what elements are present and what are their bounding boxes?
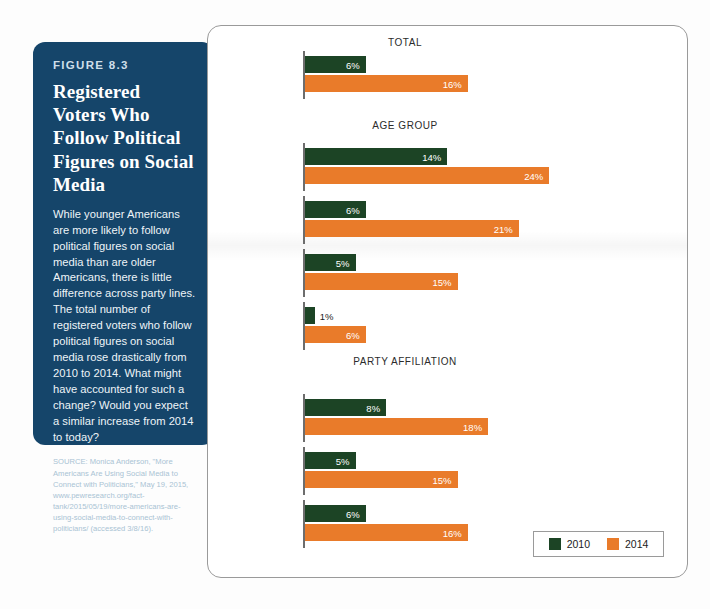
bar-2010: 5% xyxy=(305,452,356,469)
figure-number: FIGURE 8.3 xyxy=(53,59,197,71)
bar-value-label: 6% xyxy=(346,329,360,340)
legend-label-2014: 2014 xyxy=(625,538,648,550)
bar-value-label: 5% xyxy=(336,455,350,466)
legend-item-2014: 2014 xyxy=(607,538,648,550)
bar-value-label: 15% xyxy=(432,474,451,485)
figure-callout-panel: FIGURE 8.3 Registered Voters Who Follow … xyxy=(33,42,214,445)
bar-value-label: 16% xyxy=(443,527,462,538)
bar-value-label: 21% xyxy=(494,223,513,234)
bar-2010: 8% xyxy=(305,399,387,416)
section-title: PARTY AFFILIATION xyxy=(353,356,457,367)
bar-2010: 6% xyxy=(305,201,366,218)
bar-2014: 18% xyxy=(305,418,489,435)
bar-value-label: 18% xyxy=(463,421,482,432)
section-title: AGE GROUP xyxy=(372,120,438,131)
legend-swatch-2014 xyxy=(607,538,619,550)
bar-value-label: 1% xyxy=(320,310,334,321)
chart-legend: 2010 2014 xyxy=(533,531,664,557)
bar-2014: 15% xyxy=(305,273,458,290)
bar-2010: 14% xyxy=(305,148,448,165)
bar-2010: 6% xyxy=(305,56,366,73)
figure-body-text: While younger Americans are more likely … xyxy=(53,207,197,446)
bar-value-label: 6% xyxy=(346,508,360,519)
section-title: TOTAL xyxy=(388,37,422,48)
bar-value-label: 8% xyxy=(366,402,380,413)
bar-2014: 15% xyxy=(305,471,458,488)
legend-label-2010: 2010 xyxy=(567,538,590,550)
bar-value-label: 15% xyxy=(432,276,451,287)
bar-2010: 5% xyxy=(305,254,356,271)
bar-2014: 16% xyxy=(305,75,468,92)
bar-value-label: 6% xyxy=(346,204,360,215)
bar-value-label: 24% xyxy=(524,170,543,181)
legend-swatch-2010 xyxy=(549,538,561,550)
bar-2010: 1% xyxy=(305,307,315,324)
bar-2014: 6% xyxy=(305,326,366,343)
figure-source-note: SOURCE: Monica Anderson, "More Americans… xyxy=(53,456,197,534)
bar-value-label: 5% xyxy=(336,257,350,268)
bar-2014: 24% xyxy=(305,167,550,184)
legend-item-2010: 2010 xyxy=(549,538,590,550)
bar-value-label: 6% xyxy=(346,59,360,70)
bar-2014: 21% xyxy=(305,220,519,237)
figure-title: Registered Voters Who Follow Political F… xyxy=(53,80,197,196)
bar-value-label: 16% xyxy=(443,78,462,89)
chart-card: TOTAL6%16%AGE GROUP18–2914%24%30–496%21%… xyxy=(207,25,688,578)
bar-value-label: 14% xyxy=(422,151,441,162)
bar-2014: 16% xyxy=(305,524,468,541)
bar-2010: 6% xyxy=(305,505,366,522)
